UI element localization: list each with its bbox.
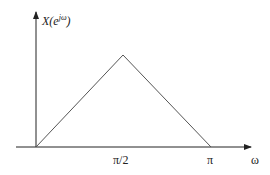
x-tick-half-pi: π/2	[113, 154, 128, 166]
spectrum-diagram	[0, 0, 270, 175]
y-axis-label: X(ejω)	[42, 14, 71, 27]
x-axis-label: ω	[251, 154, 259, 166]
x-tick-pi: π	[207, 154, 213, 166]
spectrum-curve	[36, 55, 211, 147]
